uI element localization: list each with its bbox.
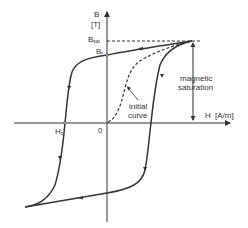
br-point xyxy=(106,54,109,57)
h-axis-label: H xyxy=(205,112,211,120)
hysteresis-lower-branch xyxy=(25,41,192,207)
arrow-right-up xyxy=(143,167,147,171)
bsat-sub: sat xyxy=(93,38,100,44)
hysteresis-upper-branch xyxy=(25,41,192,207)
br-sub: r xyxy=(101,50,103,56)
arrow-right-upper xyxy=(160,74,164,78)
br-label: Br xyxy=(96,48,103,56)
initial-curve-pointer xyxy=(128,88,138,100)
origin-label: 0 xyxy=(98,127,102,135)
b-axis-label: B xyxy=(94,11,99,19)
initial-label-2: curve xyxy=(128,112,148,120)
arrow-lower-right xyxy=(78,196,83,200)
saturation-label-2: saturation xyxy=(178,84,213,92)
h-axis-unit: [A/m] xyxy=(215,112,234,120)
saturation-label-1: magnetic xyxy=(180,75,212,83)
initial-label-1: initial xyxy=(129,103,147,111)
bsat-label: Bsat xyxy=(88,36,100,44)
hc-point xyxy=(64,122,67,125)
hc-label: Hc xyxy=(55,128,63,136)
hc-sub: c xyxy=(61,130,64,136)
arrow-left-up xyxy=(67,86,71,90)
b-axis-unit: [T] xyxy=(91,21,100,29)
